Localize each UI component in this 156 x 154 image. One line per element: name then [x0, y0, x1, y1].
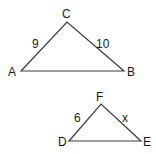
side-label-cb: 10 — [96, 37, 110, 51]
vertex-label-c: C — [62, 7, 71, 21]
triangle-abc: C A B 9 10 — [8, 7, 135, 79]
side-label-ac: 9 — [32, 37, 39, 51]
vertex-label-b: B — [127, 65, 135, 79]
triangle-def: F D E 6 x — [58, 90, 151, 149]
vertex-label-a: A — [8, 65, 16, 79]
vertex-label-d: D — [58, 135, 67, 149]
side-label-df: 6 — [74, 111, 81, 125]
vertex-label-f: F — [96, 90, 103, 104]
side-label-fe: x — [122, 111, 128, 125]
vertex-label-e: E — [143, 135, 151, 149]
similar-triangles-diagram: C A B 9 10 F D E 6 x — [0, 0, 156, 154]
